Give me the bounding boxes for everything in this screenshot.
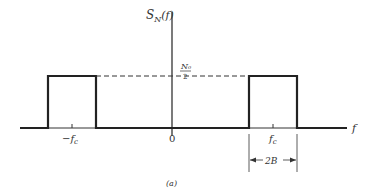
figure-caption: (a) (166, 179, 177, 188)
tick-label-pos-fc: fc (268, 133, 277, 146)
arrowhead-left-icon (250, 158, 256, 163)
psd-diagram: SN(f) N₀ 2 −fc 0 fc f 2B (a) (0, 0, 373, 192)
x-axis-label: f (351, 122, 358, 135)
level-label-numerator: N₀ (180, 62, 192, 71)
arrowhead-right-icon (290, 158, 296, 163)
spectrum-trace (20, 76, 347, 128)
tick-label-zero: 0 (169, 133, 175, 144)
bandwidth-label: 2B (264, 156, 278, 166)
tick-label-neg-fc: −fc (62, 133, 78, 146)
level-label-denominator: 2 (183, 73, 187, 81)
y-axis-label: SN(f) (146, 8, 174, 24)
